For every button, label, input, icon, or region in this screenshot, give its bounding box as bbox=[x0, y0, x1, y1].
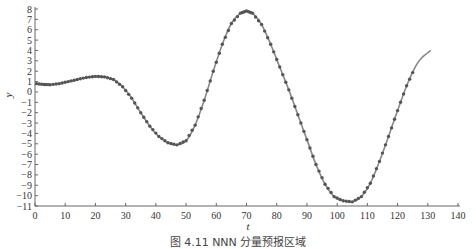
data-point bbox=[399, 101, 402, 104]
data-point bbox=[73, 78, 76, 81]
data-point bbox=[67, 80, 70, 83]
data-point bbox=[411, 71, 414, 74]
data-point bbox=[275, 58, 278, 61]
data-point bbox=[51, 83, 54, 86]
data-point bbox=[293, 105, 296, 108]
data-point bbox=[97, 75, 100, 78]
data-point bbox=[94, 75, 97, 78]
data-point bbox=[209, 79, 212, 82]
data-point bbox=[345, 199, 348, 202]
y-tick-label: 8 bbox=[27, 4, 32, 15]
data-point bbox=[142, 115, 145, 118]
data-point bbox=[348, 200, 351, 203]
data-point bbox=[320, 176, 323, 179]
data-point bbox=[54, 82, 57, 85]
data-point bbox=[121, 85, 124, 88]
y-axis-label: y bbox=[2, 92, 14, 98]
x-tick-label: 30 bbox=[121, 210, 131, 221]
data-point bbox=[357, 197, 360, 200]
data-point bbox=[329, 191, 332, 194]
y-tick-label: 5 bbox=[27, 35, 32, 46]
data-point bbox=[341, 199, 344, 202]
y-tick-label: 3 bbox=[27, 55, 32, 66]
data-point bbox=[278, 65, 281, 68]
data-point bbox=[139, 111, 142, 114]
data-point bbox=[48, 83, 51, 86]
data-point bbox=[100, 75, 103, 78]
data-point bbox=[160, 137, 163, 140]
x-tick-label: 130 bbox=[420, 210, 435, 221]
data-point bbox=[233, 18, 236, 21]
data-point bbox=[299, 121, 302, 124]
x-tick-label: 40 bbox=[151, 210, 161, 221]
data-point bbox=[284, 81, 287, 84]
data-point bbox=[82, 76, 85, 79]
data-point bbox=[326, 187, 329, 190]
data-point bbox=[372, 174, 375, 177]
data-point bbox=[260, 23, 263, 26]
x-tick-label: 90 bbox=[302, 210, 312, 221]
data-point bbox=[169, 142, 172, 145]
axes: 0102030405060708090100110120130140876543… bbox=[16, 4, 465, 222]
y-tick-label: −4 bbox=[21, 128, 32, 139]
data-point bbox=[212, 70, 215, 73]
data-point bbox=[199, 107, 202, 110]
data-point bbox=[272, 50, 275, 53]
data-point bbox=[145, 120, 148, 123]
data-point bbox=[314, 163, 317, 166]
data-point bbox=[124, 89, 127, 92]
y-tick-label: 2 bbox=[27, 66, 32, 77]
data-point bbox=[378, 160, 381, 163]
data-point bbox=[203, 99, 206, 102]
plot-series bbox=[35, 9, 431, 203]
data-point bbox=[57, 82, 60, 85]
data-point bbox=[172, 142, 175, 145]
y-tick-label: −8 bbox=[21, 169, 32, 180]
data-point bbox=[281, 73, 284, 76]
data-point bbox=[290, 96, 293, 99]
data-point bbox=[360, 195, 363, 198]
data-point bbox=[224, 36, 227, 39]
data-point bbox=[133, 101, 136, 104]
data-point bbox=[257, 19, 260, 22]
data-point bbox=[335, 196, 338, 199]
data-point bbox=[130, 96, 133, 99]
data-point bbox=[369, 181, 372, 184]
data-point bbox=[236, 15, 239, 18]
predicted-line bbox=[37, 11, 431, 202]
data-point bbox=[311, 155, 314, 158]
data-point bbox=[64, 81, 67, 84]
observed-markers bbox=[35, 9, 415, 203]
x-tick-label: 80 bbox=[272, 210, 282, 221]
data-point bbox=[154, 131, 157, 134]
y-tick-label: −6 bbox=[21, 149, 32, 160]
data-point bbox=[402, 92, 405, 95]
data-point bbox=[296, 113, 299, 116]
data-point bbox=[115, 80, 118, 83]
data-point bbox=[308, 146, 311, 149]
data-point bbox=[338, 198, 341, 201]
data-point bbox=[88, 75, 91, 78]
data-point bbox=[302, 130, 305, 133]
data-point bbox=[151, 128, 154, 131]
data-point bbox=[351, 200, 354, 203]
data-point bbox=[387, 135, 390, 138]
data-point bbox=[396, 109, 399, 112]
x-tick-label: 60 bbox=[211, 210, 221, 221]
data-point bbox=[163, 139, 166, 142]
data-point bbox=[384, 143, 387, 146]
data-point bbox=[187, 134, 190, 137]
data-point bbox=[269, 43, 272, 46]
y-tick-label: −3 bbox=[21, 118, 32, 129]
data-point bbox=[227, 29, 230, 32]
y-tick-label: 0 bbox=[27, 86, 32, 97]
y-tick-label: −9 bbox=[21, 180, 32, 191]
data-point bbox=[109, 77, 112, 80]
data-point bbox=[215, 61, 218, 64]
data-point bbox=[118, 83, 121, 86]
x-tick-label: 20 bbox=[90, 210, 100, 221]
data-point bbox=[287, 88, 290, 91]
y-tick-label: −1 bbox=[21, 97, 32, 108]
data-point bbox=[390, 126, 393, 129]
